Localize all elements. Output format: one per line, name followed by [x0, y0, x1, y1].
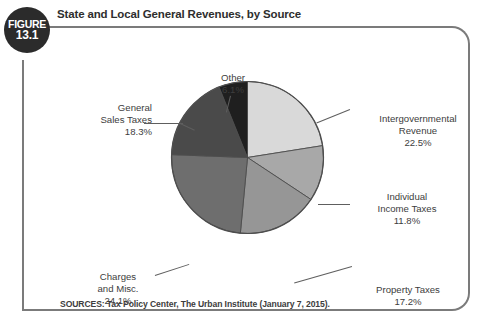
leader-line-individual	[318, 204, 350, 205]
pie-label-individual-line1: Individual	[352, 191, 462, 203]
pie-label-other: Other 6.1%	[196, 72, 270, 96]
figure-title: State and Local General Revenues, by Sou…	[57, 8, 301, 20]
pie-label-property-name: Property Taxes	[353, 284, 463, 296]
pie-label-intergovernmental-revenue: Intergovernmental Revenue 22.5%	[353, 113, 483, 150]
pie-label-general-line2: Sales Taxes	[62, 114, 152, 126]
pie-label-charges-line1: Charges	[78, 271, 158, 283]
figure-number-badge: FIGURE 13.1	[4, 7, 50, 53]
pie-label-property-taxes: Property Taxes 17.2%	[353, 284, 463, 308]
leader-line-property	[294, 266, 352, 284]
pie-label-individual-income-taxes: Individual Income Taxes 11.8%	[352, 191, 462, 228]
pie-label-general-line1: General	[62, 102, 152, 114]
pie-label-property-value: 17.2%	[353, 296, 463, 308]
pie-label-intergov-value: 22.5%	[353, 137, 483, 149]
leader-line-charges	[155, 264, 190, 276]
figure-source-note: SOURCES: Tax Policy Center, The Urban In…	[60, 299, 330, 309]
pie-chart-area: Other 6.1% General Sales Taxes 18.3% Int…	[22, 28, 470, 286]
pie-slice	[172, 155, 248, 234]
pie-chart	[170, 80, 325, 235]
pie-label-intergov-line1: Intergovernmental	[353, 113, 483, 125]
pie-label-other-value: 6.1%	[196, 84, 270, 96]
pie-slice-group	[172, 82, 324, 234]
figure-badge-number: 13.1	[16, 29, 39, 41]
pie-label-general-sales-taxes: General Sales Taxes 18.3%	[62, 102, 152, 139]
pie-label-charges-line2: and Misc.	[78, 283, 158, 295]
pie-chart-svg	[170, 80, 325, 235]
pie-label-individual-line2: Income Taxes	[352, 203, 462, 215]
pie-label-other-name: Other	[196, 72, 270, 84]
pie-label-individual-value: 11.8%	[352, 215, 462, 227]
pie-label-general-value: 18.3%	[62, 126, 152, 138]
pie-label-intergov-line2: Revenue	[353, 125, 483, 137]
